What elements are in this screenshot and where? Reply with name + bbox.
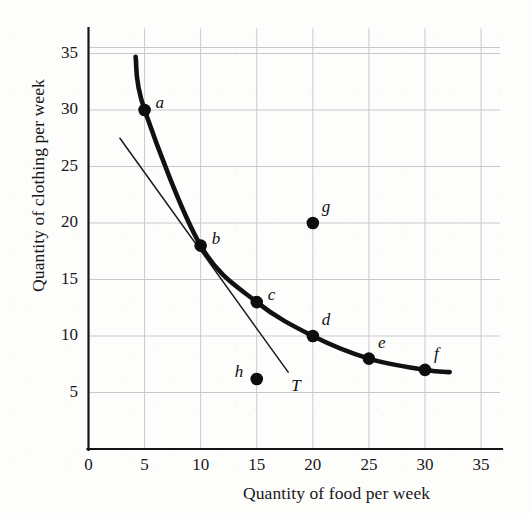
- point-label-a: a: [156, 93, 165, 113]
- x-tick-label-15: 15: [242, 455, 272, 475]
- y-tick-label-15: 15: [48, 269, 78, 289]
- tangent-line-t: [120, 138, 288, 372]
- y-tick-label-30: 30: [48, 99, 78, 119]
- point-label-g: g: [322, 197, 331, 217]
- gridlines-horizontal: [89, 48, 501, 393]
- data-point-g: [307, 217, 320, 230]
- data-point-a: [138, 104, 151, 117]
- indifference-curve: [136, 57, 450, 372]
- y-tick-label-35: 35: [48, 43, 78, 63]
- x-axis-title: Quantity of food per week: [243, 483, 430, 504]
- point-label-e: e: [378, 333, 386, 353]
- x-tick-label-0: 0: [74, 455, 104, 475]
- y-tick-label-20: 20: [48, 212, 78, 232]
- y-tick-label-5: 5: [48, 382, 78, 402]
- point-label-c: c: [268, 285, 276, 305]
- data-point-f: [419, 364, 432, 377]
- x-tick-label-20: 20: [298, 455, 328, 475]
- x-tick-label-25: 25: [354, 455, 384, 475]
- annotation-T: T: [291, 376, 300, 396]
- data-point-d: [307, 330, 320, 343]
- x-tick-label-30: 30: [410, 455, 440, 475]
- y-tick-label-25: 25: [48, 156, 78, 176]
- data-point-h: [250, 373, 263, 386]
- chart-figure: 05101520253035 5101520253035 abcdefghT Q…: [0, 0, 530, 514]
- x-tick-label-5: 5: [130, 455, 160, 475]
- point-label-h: h: [235, 362, 244, 382]
- y-axis-title: Quantity of clothing per week: [28, 56, 49, 316]
- data-point-markers: [138, 104, 431, 386]
- data-point-c: [250, 296, 263, 309]
- plot-canvas: [0, 0, 530, 514]
- y-tick-label-10: 10: [48, 325, 78, 345]
- data-point-e: [363, 352, 376, 365]
- point-label-b: b: [212, 229, 221, 249]
- data-point-b: [194, 239, 207, 252]
- point-label-d: d: [322, 310, 331, 330]
- x-tick-label-10: 10: [186, 455, 216, 475]
- point-label-f: f: [434, 344, 439, 364]
- x-tick-label-35: 35: [466, 455, 496, 475]
